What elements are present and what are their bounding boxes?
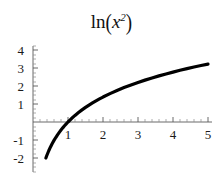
- plot-figure: ln(x2): [0, 0, 223, 176]
- y-axis-major-ticks: [33, 50, 38, 158]
- x-tick-label-1: 1: [58, 128, 78, 141]
- y-tick-label-minus-2: -2: [2, 152, 24, 165]
- x-tick-label-3: 3: [128, 128, 148, 141]
- plot-canvas: [0, 0, 223, 176]
- x-tick-label-2: 2: [93, 128, 113, 141]
- y-tick-label-4: 4: [8, 44, 24, 57]
- y-tick-label-minus-1: -1: [2, 134, 24, 147]
- y-tick-label-3: 3: [8, 62, 24, 75]
- data-curve-ln-x-squared: [46, 64, 208, 158]
- y-tick-label-1: 1: [8, 98, 24, 111]
- x-tick-label-5: 5: [198, 128, 218, 141]
- x-tick-label-4: 4: [163, 128, 183, 141]
- y-tick-label-2: 2: [8, 80, 24, 93]
